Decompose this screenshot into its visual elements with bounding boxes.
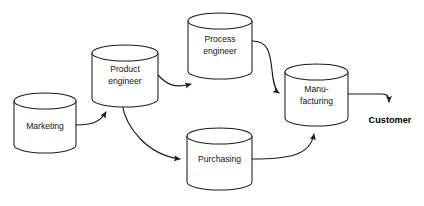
- node-process-engineer[interactable]: Process engineer: [188, 13, 252, 79]
- marketing-cylinder-top: [14, 93, 76, 109]
- product-engineer-cylinder-top: [92, 45, 158, 61]
- product-engineer-label-line2: engineer: [108, 76, 142, 86]
- terminal-customer: Customer: [369, 115, 412, 125]
- process-engineer-cylinder-top: [188, 13, 252, 29]
- edge-product-engineer-to-purchasing: [122, 104, 180, 159]
- manufacturing-label-line2: facturing: [300, 96, 333, 106]
- edge-purchasing-to-manufacturing: [252, 134, 314, 159]
- node-marketing[interactable]: Marketing: [14, 93, 76, 153]
- edge-product-engineer-to-process-engineer: [158, 75, 191, 86]
- node-manufacturing[interactable]: Manu- facturing: [285, 64, 348, 126]
- node-purchasing[interactable]: Purchasing: [187, 128, 252, 190]
- flow-diagram: Marketing Product engineer Process engin…: [0, 0, 424, 206]
- customer-label: Customer: [369, 115, 412, 125]
- manufacturing-cylinder-top: [285, 64, 348, 80]
- product-engineer-label-line1: Product: [110, 64, 140, 74]
- purchasing-cylinder-top: [187, 128, 252, 144]
- manufacturing-label-line1: Manu-: [304, 84, 328, 94]
- purchasing-label: Purchasing: [198, 154, 241, 164]
- edge-manufacturing-to-customer: [348, 94, 389, 102]
- node-product-engineer[interactable]: Product engineer: [92, 45, 158, 107]
- edge-marketing-to-product-engineer: [76, 112, 106, 125]
- edge-process-engineer-to-manufacturing: [252, 41, 279, 93]
- process-engineer-label-line2: engineer: [203, 46, 237, 56]
- process-engineer-label-line1: Process: [204, 34, 235, 44]
- marketing-label: Marketing: [26, 121, 64, 131]
- diagram-canvas: Marketing Product engineer Process engin…: [0, 0, 424, 206]
